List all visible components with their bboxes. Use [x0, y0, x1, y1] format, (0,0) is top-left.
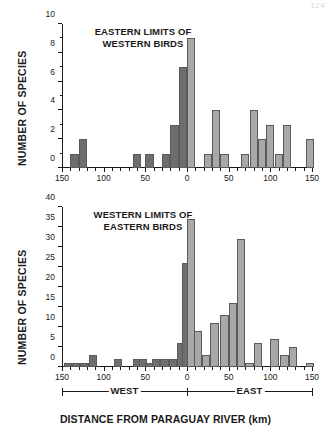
- y-tick: [58, 246, 62, 247]
- east-end-cap: [312, 388, 313, 396]
- histogram-bar: [162, 154, 170, 168]
- plot-area-bottom: WESTERN LIMITS OF EASTERN BIRDS 05101520…: [62, 207, 312, 367]
- x-tick-label: 50: [141, 173, 150, 183]
- histogram-bar: [275, 154, 283, 168]
- x-tick-minor: [120, 168, 121, 171]
- y-tick-minor: [60, 124, 63, 125]
- x-tick: [145, 168, 146, 172]
- x-tick-minor: [204, 367, 205, 370]
- x-tick-minor: [279, 367, 280, 370]
- y-tick: [58, 52, 62, 53]
- y-tick-label: 40: [39, 192, 55, 202]
- histogram-bar: [210, 323, 218, 367]
- histogram-bar: [64, 363, 72, 367]
- histogram-bar: [283, 125, 291, 168]
- plot-area-top: EASTERN LIMITS OF WESTERN BIRDS 02468101…: [62, 24, 312, 168]
- x-tick-label: 150: [305, 173, 319, 183]
- west-label: WEST: [108, 385, 140, 396]
- x-tick: [187, 168, 188, 172]
- y-tick-label: 6: [39, 67, 55, 77]
- histogram-bar: [241, 154, 249, 168]
- x-tick-minor: [162, 168, 163, 171]
- histogram-bar: [306, 139, 314, 168]
- x-tick-minor: [287, 168, 288, 171]
- x-tick-minor: [245, 367, 246, 370]
- histogram-bar: [79, 139, 87, 168]
- histogram-bar: [133, 154, 141, 168]
- histogram-bar: [72, 363, 80, 367]
- x-tick-minor: [129, 168, 130, 171]
- x-tick: [312, 168, 313, 172]
- direction-indicator-bar: WEST EAST: [0, 391, 331, 403]
- x-tick-minor: [154, 367, 155, 370]
- histogram-bar: [229, 303, 237, 367]
- x-tick: [229, 168, 230, 172]
- histogram-bar: [280, 355, 288, 367]
- chart-title-top: EASTERN LIMITS OF WESTERN BIRDS: [68, 26, 218, 49]
- y-axis-line-top: [62, 24, 63, 168]
- page-number: 124: [310, 1, 325, 10]
- x-tick-minor: [295, 168, 296, 171]
- histogram-bar: [258, 139, 266, 168]
- y-tick: [58, 326, 62, 327]
- x-tick-minor: [137, 367, 138, 370]
- x-tick-minor: [204, 168, 205, 171]
- x-tick-minor: [79, 168, 80, 171]
- y-tick-label: 8: [39, 38, 55, 48]
- x-tick-minor: [295, 367, 296, 370]
- x-tick-minor: [162, 367, 163, 370]
- x-tick-minor: [220, 168, 221, 171]
- y-tick-label: 10: [39, 312, 55, 322]
- histogram-bar: [212, 110, 220, 168]
- y-tick-label: 20: [39, 272, 55, 282]
- x-tick-label: 0: [185, 173, 190, 183]
- histogram-bar: [169, 359, 177, 367]
- y-tick: [58, 306, 62, 307]
- histogram-bar: [202, 355, 210, 367]
- x-tick: [104, 168, 105, 172]
- y-tick-label: 0: [39, 153, 55, 163]
- y-tick-minor: [60, 37, 63, 38]
- x-tick-minor: [179, 367, 180, 370]
- x-tick: [104, 367, 105, 371]
- x-tick-minor: [112, 168, 113, 171]
- y-tick-label: 15: [39, 292, 55, 302]
- x-tick-minor: [87, 168, 88, 171]
- x-tick-label: 100: [263, 173, 277, 183]
- x-tick: [312, 367, 313, 371]
- y-tick: [58, 206, 62, 207]
- y-tick-minor: [60, 66, 63, 67]
- x-tick-minor: [120, 367, 121, 370]
- x-tick-label: 50: [224, 173, 233, 183]
- x-tick-minor: [212, 367, 213, 370]
- x-tick-minor: [137, 168, 138, 171]
- histogram-bar: [254, 343, 262, 367]
- x-tick: [62, 168, 63, 172]
- y-tick-label: 2: [39, 124, 55, 134]
- west-end-cap: [62, 388, 63, 396]
- y-tick-label: 25: [39, 252, 55, 262]
- x-tick: [187, 367, 188, 371]
- y-tick-minor: [60, 95, 63, 96]
- x-tick-minor: [179, 168, 180, 171]
- histogram-bar: [266, 125, 274, 168]
- x-tick-label: 50: [141, 372, 150, 382]
- x-tick-label: 100: [263, 372, 277, 382]
- histogram-bar: [80, 363, 88, 367]
- histogram-bar: [250, 110, 258, 168]
- y-axis-label-bottom: NUMBER OF SPECIES: [16, 250, 28, 365]
- figure-container: 124 NUMBER OF SPECIES EASTERN LIMITS OF …: [0, 0, 331, 435]
- histogram-bar: [187, 38, 195, 168]
- y-axis-label-top: NUMBER OF SPECIES: [16, 51, 28, 166]
- y-tick-label: 10: [39, 9, 55, 19]
- histogram-bar: [152, 359, 160, 367]
- y-tick: [58, 109, 62, 110]
- x-tick-label: 100: [97, 372, 111, 382]
- x-tick-minor: [262, 367, 263, 370]
- x-tick-label: 50: [224, 372, 233, 382]
- x-tick-minor: [304, 168, 305, 171]
- x-tick-minor: [170, 168, 171, 171]
- histogram-bar: [170, 125, 178, 168]
- y-tick-label: 4: [39, 95, 55, 105]
- y-tick-label: 35: [39, 212, 55, 222]
